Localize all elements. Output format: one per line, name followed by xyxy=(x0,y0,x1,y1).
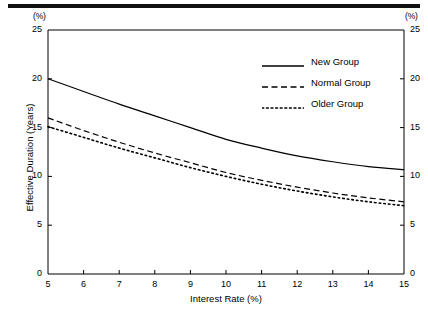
y-tick-label-left: 0 xyxy=(14,268,42,278)
series-line-1 xyxy=(48,118,404,202)
x-tick-label: 13 xyxy=(321,279,345,289)
legend-swatch-solid-icon xyxy=(262,57,304,67)
y-tick-label-right: 0 xyxy=(410,268,428,278)
x-tick-label: 12 xyxy=(285,279,309,289)
legend-item: Older Group xyxy=(262,93,402,114)
y-tick-label-right: 15 xyxy=(410,122,428,132)
y-tick-label-left: 20 xyxy=(14,73,42,83)
figure-container: (%) (%) 56789101112131415005510101515202… xyxy=(0,0,428,312)
x-tick-label: 5 xyxy=(36,279,60,289)
legend-swatch-dashed-icon xyxy=(262,78,304,88)
x-tick-label: 7 xyxy=(107,279,131,289)
legend-item: New Group xyxy=(262,51,402,72)
x-tick-label: 9 xyxy=(178,279,202,289)
y-tick-label-right: 20 xyxy=(410,73,428,83)
legend-label: Older Group xyxy=(311,98,363,109)
x-tick-label: 8 xyxy=(143,279,167,289)
series-line-2 xyxy=(48,127,404,206)
legend-item: Normal Group xyxy=(262,72,402,93)
y-tick-label-left: 25 xyxy=(14,24,42,34)
y-tick-label-right: 5 xyxy=(410,219,428,229)
legend-swatch-dotted-icon xyxy=(262,99,304,109)
y-axis-title: Effective Duration (Years) xyxy=(24,83,35,233)
legend-label: New Group xyxy=(311,56,359,67)
x-tick-label: 14 xyxy=(356,279,380,289)
chart-plot xyxy=(0,0,428,312)
y-tick-label-right: 10 xyxy=(410,170,428,180)
legend-label: Normal Group xyxy=(311,77,371,88)
x-tick-label: 11 xyxy=(250,279,274,289)
x-tick-label: 10 xyxy=(214,279,238,289)
x-tick-label: 6 xyxy=(72,279,96,289)
y-tick-label-right: 25 xyxy=(410,24,428,34)
x-axis-title: Interest Rate (%) xyxy=(48,293,404,304)
x-tick-label: 15 xyxy=(392,279,416,289)
chart-legend: New GroupNormal GroupOlder Group xyxy=(262,51,402,114)
